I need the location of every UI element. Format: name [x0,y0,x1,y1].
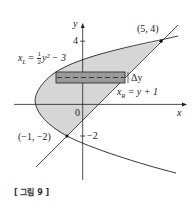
equation-xr-rhs: = y + 1 [125,86,158,97]
origin-label: 0 [75,108,80,118]
equation-xl-fraction: 12 [37,51,41,66]
y-tick-label-neg2: −2 [87,131,98,141]
frac-den: 2 [37,59,41,66]
y-axis-label: y [73,19,77,29]
region-diagram [0,0,193,204]
point-label-neg1-neg2: (−1, −2) [18,132,51,142]
x-axis-arrow-icon [182,102,187,106]
y-axis-arrow-icon [81,23,85,28]
point-neg1-neg2 [65,134,68,137]
equation-xr: xR = y + 1 [117,87,158,99]
x-axis-label: x [177,108,181,118]
delta-y-label: Δy [131,73,142,83]
point-label-5-4: (5, 4) [137,24,159,34]
y-tick-label-4: 4 [73,36,78,46]
equation-xl-rest: y² − 3 [42,52,66,63]
equation-xl-sub: L [22,59,25,65]
figure-caption: [ 그림 9 ] [14,186,49,197]
point-5-4 [159,40,162,43]
equation-xl: xL = 12y² − 3 [18,51,66,66]
